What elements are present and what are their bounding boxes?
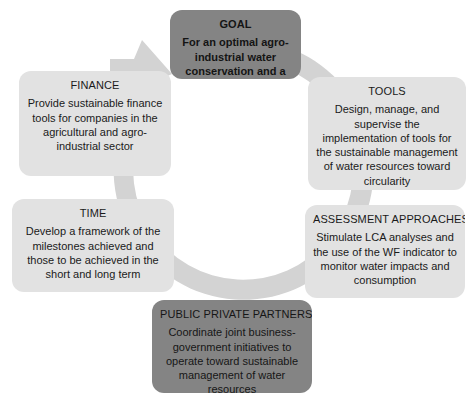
node-tools[interactable]: TOOLS Design, manage, and supervise the … bbox=[308, 77, 466, 190]
node-finance-title: FINANCE bbox=[27, 78, 163, 92]
node-finance-body: Provide sustainable finance tools for co… bbox=[27, 96, 163, 153]
node-time[interactable]: TIME Develop a framework of the mileston… bbox=[12, 199, 174, 292]
node-time-body: Develop a framework of the milestones ac… bbox=[20, 224, 166, 281]
node-time-title: TIME bbox=[20, 206, 166, 220]
node-finance[interactable]: FINANCE Provide sustainable finance tool… bbox=[19, 71, 171, 176]
node-goal-body: For an optimal agro-industrial water con… bbox=[178, 35, 293, 79]
node-assessment-approaches-title: ASSESSMENT APPROACHES bbox=[313, 212, 457, 226]
node-public-private-partnerships[interactable]: PUBLIC PRIVATE PARTNERSHIPS Coordinate j… bbox=[152, 300, 312, 393]
node-goal[interactable]: GOAL For an optimal agro-industrial wate… bbox=[170, 10, 301, 79]
node-public-private-partnerships-body: Coordinate joint business-government ini… bbox=[160, 325, 304, 393]
node-public-private-partnerships-title: PUBLIC PRIVATE PARTNERSHIPS bbox=[160, 307, 304, 321]
cycle-diagram: GOAL For an optimal agro-industrial wate… bbox=[0, 0, 473, 401]
node-assessment-approaches-body: Stimulate LCA analyses and the use of th… bbox=[313, 230, 457, 287]
node-tools-title: TOOLS bbox=[316, 84, 458, 98]
node-assessment-approaches[interactable]: ASSESSMENT APPROACHES Stimulate LCA anal… bbox=[305, 205, 465, 298]
node-tools-body: Design, manage, and supervise the implem… bbox=[316, 102, 458, 188]
node-goal-title: GOAL bbox=[178, 17, 293, 31]
